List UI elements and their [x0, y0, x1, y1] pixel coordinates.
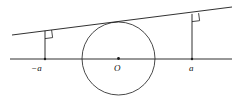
- right-foot-dot: [191, 58, 193, 60]
- right-right-angle-marker: [192, 13, 200, 22]
- left-foot-dot: [44, 58, 46, 60]
- label-minus-a: −a: [31, 64, 42, 73]
- figure-canvas: [0, 0, 241, 111]
- geometry-figure: −a O a: [0, 0, 241, 111]
- label-a: a: [189, 64, 194, 73]
- left-right-angle-marker: [45, 30, 53, 39]
- center-point-dot: [117, 57, 120, 60]
- label-center-o: O: [114, 64, 121, 73]
